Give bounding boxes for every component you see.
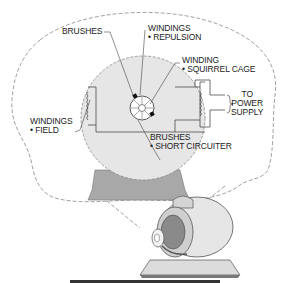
label-winding-squirrel-cage: WINDING • SQUIRREL CAGE <box>182 56 255 74</box>
label-windings-repulsion: WINDINGS • REPULSION <box>148 24 201 42</box>
callout-tail-left <box>102 197 140 228</box>
label-power-supply: TO POWER SUPPLY <box>231 90 263 117</box>
diagram-graphics <box>0 0 290 283</box>
label-brushes-short-circuiter: BRUSHES • SHORT CIRCUITER <box>150 133 232 151</box>
motor-illustration <box>140 196 240 278</box>
label-brushes: BRUSHES <box>62 27 102 36</box>
repulsion-induction-motor-diagram: BRUSHES WINDINGS • REPULSION WINDING • S… <box>0 0 290 283</box>
label-windings-field: WINDINGS • FIELD <box>30 117 73 135</box>
